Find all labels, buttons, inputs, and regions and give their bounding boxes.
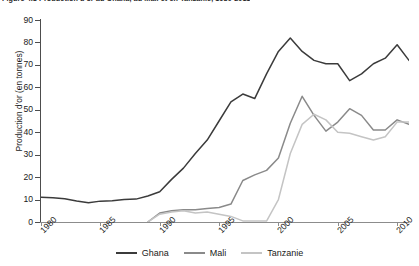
legend-item-tanzanie[interactable]: Tanzanie <box>241 248 303 258</box>
y-axis-tick <box>35 222 40 223</box>
y-axis-tick-label: 50 <box>7 105 33 114</box>
y-axis-tick <box>35 65 40 66</box>
series-lines <box>41 20 409 222</box>
legend-label: Mali <box>210 248 227 258</box>
legend-item-ghana[interactable]: Ghana <box>116 248 184 258</box>
y-axis-tick-label: 10 <box>7 195 33 204</box>
y-axis-tick <box>35 20 40 21</box>
legend-swatch-tanzanie <box>241 252 262 254</box>
y-axis-tick-label: 0 <box>7 218 33 227</box>
y-axis-tick-label: 20 <box>7 173 33 182</box>
y-axis-tick <box>35 110 40 111</box>
y-axis-tick <box>35 155 40 156</box>
y-axis-tick <box>35 200 40 201</box>
figure-title: Figure 4.1 Production d'or au Ghana, au … <box>2 0 250 3</box>
y-axis-tick-label: 90 <box>7 16 33 25</box>
legend-label: Tanzanie <box>267 248 303 258</box>
y-axis-tick-label: 40 <box>7 128 33 137</box>
y-axis-tick <box>35 87 40 88</box>
legend: GhanaMaliTanzanie <box>0 248 419 258</box>
line-series-ghana <box>41 38 409 203</box>
legend-swatch-ghana <box>116 252 137 254</box>
legend-item-mali[interactable]: Mali <box>184 248 242 258</box>
y-axis-tick-label: 70 <box>7 60 33 69</box>
figure-container: Figure 4.1 Production d'or au Ghana, au … <box>0 0 419 266</box>
y-axis-labels: 0102030405060708090 <box>0 0 33 266</box>
y-axis-tick <box>35 42 40 43</box>
y-axis-tick-label: 60 <box>7 83 33 92</box>
line-series-mali <box>148 96 409 222</box>
y-axis-tick <box>35 132 40 133</box>
y-axis-tick-label: 30 <box>7 150 33 159</box>
legend-label: Ghana <box>142 248 169 258</box>
y-axis-tick <box>35 177 40 178</box>
y-axis-tick-label: 80 <box>7 38 33 47</box>
legend-swatch-mali <box>184 252 205 254</box>
line-series-tanzanie <box>148 114 409 222</box>
plot-area <box>41 20 409 222</box>
